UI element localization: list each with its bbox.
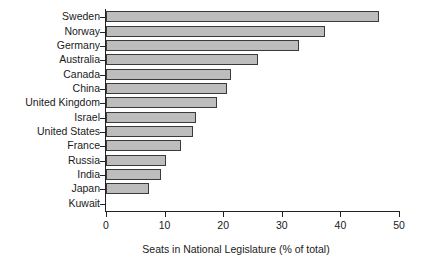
bar (106, 11, 379, 22)
bar-row (106, 96, 399, 110)
y-axis-label: Israel (0, 112, 100, 123)
bar-row (106, 154, 399, 168)
y-axis-label: United Kingdom (0, 97, 100, 108)
y-axis-label: Germany (0, 40, 100, 51)
bar-row (106, 139, 399, 153)
bar (106, 97, 217, 108)
y-axis-label: China (0, 83, 100, 94)
x-axis-tick (165, 212, 166, 217)
bar-row (106, 168, 399, 182)
horizontal-bar-chart: SwedenNorwayGermanyAustraliaCanadaChinaU… (0, 0, 432, 272)
bar-row (106, 197, 399, 211)
y-axis-category-labels: SwedenNorwayGermanyAustraliaCanadaChinaU… (0, 10, 100, 211)
bar (106, 54, 258, 65)
bar (106, 155, 166, 166)
y-axis-label: United States (0, 126, 100, 137)
x-axis-tick-label: 0 (91, 219, 121, 231)
x-axis-tick-label: 50 (384, 219, 414, 231)
bar-row (106, 53, 399, 67)
x-axis-tick (399, 212, 400, 217)
y-axis-label: India (0, 169, 100, 180)
bar-row (106, 24, 399, 38)
bar-row (106, 39, 399, 53)
bar (106, 183, 149, 194)
y-axis-label: Russia (0, 155, 100, 166)
bar (106, 126, 193, 137)
x-axis-tick (223, 212, 224, 217)
x-axis-title: Seats in National Legislature (% of tota… (0, 243, 432, 255)
y-axis-label: Sweden (0, 11, 100, 22)
x-axis-tick-label: 40 (325, 219, 355, 231)
bar-row (106, 125, 399, 139)
y-axis-label: Canada (0, 69, 100, 80)
bar-row (106, 67, 399, 81)
x-axis-tick (106, 212, 107, 217)
x-axis-tick-label: 30 (267, 219, 297, 231)
bar (106, 26, 325, 37)
x-axis-tick (340, 212, 341, 217)
y-axis-label: Norway (0, 26, 100, 37)
y-axis-label: Japan (0, 183, 100, 194)
bar-row (106, 82, 399, 96)
y-axis-label: Kuwait (0, 198, 100, 209)
bar (106, 169, 161, 180)
x-axis-tick-label: 10 (150, 219, 180, 231)
x-axis-tick (282, 212, 283, 217)
bar (106, 112, 196, 123)
bar-row (106, 182, 399, 196)
plot-area (106, 10, 399, 211)
x-axis-tick-label: 20 (208, 219, 238, 231)
bar-row (106, 111, 399, 125)
y-axis-label: Australia (0, 54, 100, 65)
bar-row (106, 10, 399, 24)
bar (106, 83, 227, 94)
bar (106, 140, 181, 151)
y-axis-label: France (0, 140, 100, 151)
x-axis-line (105, 211, 400, 212)
bar (106, 69, 231, 80)
bar (106, 40, 299, 51)
